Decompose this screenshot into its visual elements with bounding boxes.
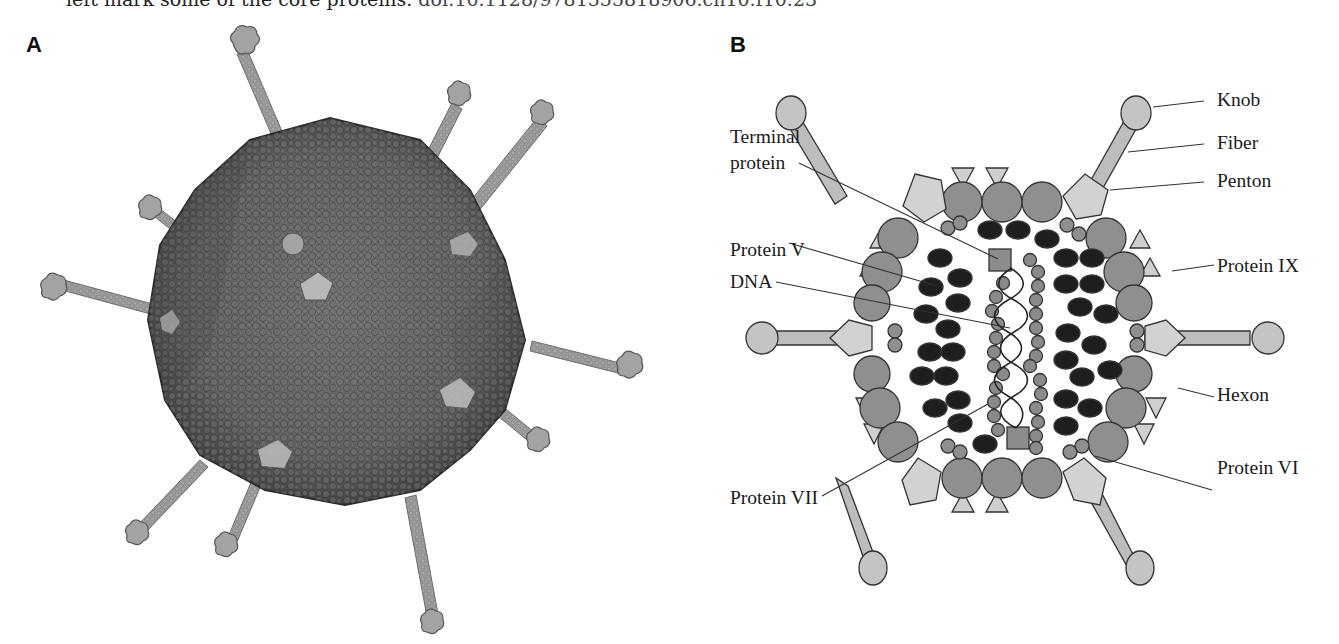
protein-vii-circles bbox=[986, 254, 1048, 455]
label-protein-v: Protein V bbox=[730, 239, 805, 260]
label-protein-ix: Protein IX bbox=[1217, 255, 1299, 276]
label-dna: DNA bbox=[730, 271, 772, 292]
label-penton: Penton bbox=[1217, 170, 1271, 191]
label-terminal-protein-line1: Terminal bbox=[730, 126, 801, 147]
label-knob: Knob bbox=[1217, 89, 1260, 110]
label-hexon: Hexon bbox=[1217, 384, 1269, 405]
label-protein-vi: Protein VI bbox=[1217, 457, 1298, 478]
label-fiber: Fiber bbox=[1217, 132, 1259, 153]
panel-b-schematic: Knob Fiber Penton Protein IX Hexon Prote… bbox=[0, 0, 1339, 644]
label-protein-vii: Protein VII bbox=[730, 487, 818, 508]
label-terminal-protein-line2: protein bbox=[730, 152, 785, 173]
